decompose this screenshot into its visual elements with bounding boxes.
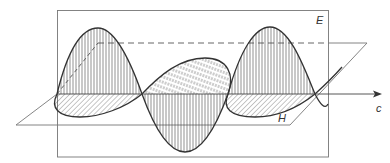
- h-plane-left-edge: [16, 94, 57, 125]
- h-plane-label: H: [278, 112, 286, 124]
- em-wave-diagram: E H c: [0, 0, 390, 163]
- h-wave-lobe-1: [55, 94, 142, 117]
- h-wave-lobe-2: [142, 58, 231, 94]
- e-wave-lobe-3: [228, 27, 315, 94]
- e-plane-label: E: [316, 14, 324, 26]
- h-wave-lobe-3: [226, 94, 315, 117]
- propagation-label: c: [376, 102, 382, 114]
